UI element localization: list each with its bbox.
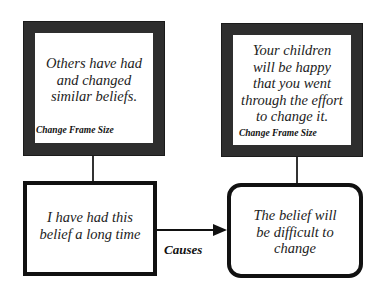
text-line: The belief will (231, 207, 359, 224)
text-line: I have had this (27, 209, 153, 226)
text-line: that you went (233, 75, 351, 92)
text-line: to change it. (233, 108, 351, 125)
left-frame-text: Others have had and changed similar beli… (35, 55, 153, 105)
text-line: belief a long time (27, 226, 153, 243)
causes-arrow-line (157, 229, 215, 231)
text-line: through the effort (233, 92, 351, 109)
change-frame-size-caption[interactable]: Change Frame Size (36, 125, 114, 135)
causes-label: Causes (164, 242, 202, 258)
left-frame-content: Others have had and changed similar beli… (35, 33, 153, 143)
arrowhead-icon (213, 224, 227, 236)
right-frame-content: Your children will be happy that you wen… (233, 35, 351, 145)
consequence-box-text: The belief will be difficult to change (231, 207, 359, 257)
right-frame-text: Your children will be happy that you wen… (233, 42, 351, 125)
left-connector-line (92, 156, 94, 182)
text-line: and changed (35, 72, 153, 89)
text-line: be difficult to (231, 224, 359, 241)
left-frame: Others have had and changed similar beli… (23, 21, 165, 156)
consequence-box: The belief will be difficult to change (227, 183, 363, 278)
change-frame-size-caption[interactable]: Change Frame Size (239, 128, 317, 138)
text-line: Your children (233, 42, 351, 59)
text-line: change (231, 240, 359, 257)
belief-box: I have had this belief a long time (23, 181, 157, 276)
text-line: Others have had (35, 55, 153, 72)
right-connector-line (296, 157, 298, 184)
belief-box-text: I have had this belief a long time (27, 209, 153, 242)
right-frame: Your children will be happy that you wen… (221, 23, 363, 157)
text-line: similar beliefs. (35, 88, 153, 105)
text-line: will be happy (233, 59, 351, 76)
